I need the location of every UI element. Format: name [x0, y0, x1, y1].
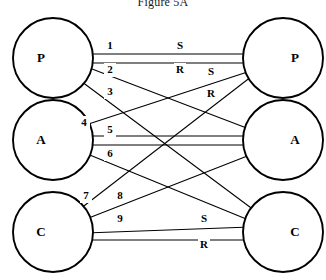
marker-s-top: S [177, 39, 183, 51]
marker-r-top: R [176, 63, 185, 75]
edge-label-8: 8 [117, 189, 123, 201]
node-label-right-a: A [290, 132, 300, 147]
node-left-a[interactable]: A [13, 100, 93, 180]
edge-label-7: 7 [83, 189, 89, 201]
node-right-c[interactable]: C [243, 192, 323, 272]
edge-label-6: 6 [107, 147, 113, 159]
edge-label-3: 3 [107, 85, 113, 97]
node-label-left-a: A [36, 132, 46, 147]
node-circle-left-a [13, 100, 93, 180]
figure-container: Figure 5A PACPAC 123456789 SRSRSR [0, 0, 326, 280]
node-label-right-p: P [291, 50, 299, 65]
node-circle-right-p [243, 18, 323, 98]
node-label-right-c: C [290, 224, 299, 239]
node-label-left-p: P [37, 50, 45, 65]
node-circle-left-p [13, 18, 93, 98]
marker-r-upper-right: R [207, 87, 216, 99]
edge-label-4: 4 [81, 116, 87, 128]
edge-label-1: 1 [107, 39, 113, 51]
marker-s-bottom: S [201, 212, 207, 224]
node-left-p[interactable]: P [13, 18, 93, 98]
marker-r-bottom: R [200, 238, 209, 250]
edge-label-5: 5 [107, 123, 113, 135]
node-circle-right-c [243, 192, 323, 272]
bipartite-graph-diagram: PACPAC 123456789 SRSRSR [0, 0, 326, 280]
edge-label-2: 2 [107, 63, 113, 75]
node-label-left-c: C [36, 224, 45, 239]
node-circle-left-c [13, 192, 93, 272]
marker-s-upper-right: S [208, 65, 214, 77]
node-right-p[interactable]: P [243, 18, 323, 98]
node-left-c[interactable]: C [13, 192, 93, 272]
node-circle-right-a [243, 100, 323, 180]
edge-label-9: 9 [117, 212, 123, 224]
node-right-a[interactable]: A [243, 100, 323, 180]
